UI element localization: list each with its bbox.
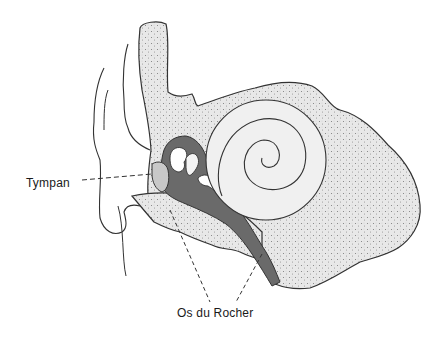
rocher-leader-right xyxy=(236,254,262,302)
cochlea xyxy=(206,100,326,220)
ossicle-malleus xyxy=(170,147,187,172)
label-tympan: Tympan xyxy=(26,176,70,190)
label-os-du-rocher: Os du Rocher xyxy=(177,306,253,320)
ear-diagram xyxy=(0,0,440,347)
tympan-leader xyxy=(82,174,152,180)
outer-ear-fold xyxy=(104,90,108,130)
outer-ear xyxy=(93,68,140,233)
